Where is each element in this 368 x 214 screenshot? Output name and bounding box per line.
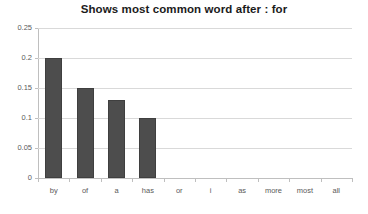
x-axis-tick <box>352 178 353 182</box>
x-axis-tick <box>164 178 165 182</box>
bar-chart: Shows most common word after : for 00.05… <box>0 0 368 214</box>
x-axis-tick <box>226 178 227 182</box>
x-axis-tick-label: has <box>132 186 163 195</box>
bar <box>45 58 62 178</box>
gridline <box>38 28 352 29</box>
y-axis-tick-label: 0 <box>28 174 32 182</box>
y-axis-tick-label: 0.15 <box>17 84 32 92</box>
x-axis-tick <box>132 178 133 182</box>
bar <box>77 88 94 178</box>
x-axis-tick-label: more <box>258 186 289 195</box>
x-axis-tick-label: or <box>164 186 195 195</box>
x-axis-tick-label: most <box>289 186 320 195</box>
gridline <box>38 58 352 59</box>
y-axis-tick-label: 0.05 <box>17 144 32 152</box>
x-axis-tick-label: by <box>38 186 69 195</box>
x-axis-tick <box>258 178 259 182</box>
x-axis-tick-label: as <box>226 186 257 195</box>
plot-area <box>38 28 352 178</box>
bar <box>139 118 156 178</box>
x-axis-tick <box>101 178 102 182</box>
chart-title: Shows most common word after : for <box>0 3 368 15</box>
x-axis-tick <box>195 178 196 182</box>
y-axis-tick-label: 0.1 <box>22 114 32 122</box>
y-axis-tick-label: 0.25 <box>17 24 32 32</box>
x-axis-tick-label: all <box>321 186 352 195</box>
x-axis-tick <box>38 178 39 182</box>
x-axis-tick-label: of <box>69 186 100 195</box>
x-axis-tick <box>69 178 70 182</box>
y-axis-tick-label: 0.2 <box>22 54 32 62</box>
bar <box>108 100 125 178</box>
x-axis-tick <box>321 178 322 182</box>
x-axis-tick <box>289 178 290 182</box>
x-axis-tick-label: a <box>101 186 132 195</box>
x-axis-tick-label: i <box>195 186 226 195</box>
